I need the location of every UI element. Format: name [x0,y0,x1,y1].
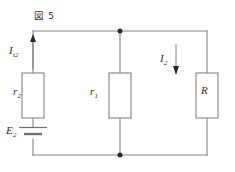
current-label-right: I2 [160,53,167,64]
source-label-E2-subscript: 2 [13,131,17,139]
resistor-r1-body [109,73,131,118]
current-arrow-right [173,44,179,75]
junction-node-top [118,29,123,34]
current-label-left-subscript: t2 [13,51,18,59]
junction-node-bottom [118,153,123,158]
source-label-E2: E2 [6,125,16,136]
resistor-label-R: R [201,85,208,96]
circuit-schematic-svg [0,0,235,172]
resistor-label-r2-symbol: r [13,85,17,97]
resistor-label-r1-symbol: r [90,85,94,97]
source-label-E2-symbol: E [6,124,13,136]
current-label-left: It2 [9,45,18,56]
circuit-figure: 図 5 [0,0,235,172]
resistor-label-r1-subscript: 1 [95,92,99,100]
resistor-label-r2: r2 [13,86,21,97]
resistor-r2-body [22,73,44,118]
resistor-label-R-symbol: R [201,84,208,96]
current-arrow-left [30,34,36,69]
current-label-right-subscript: 2 [164,59,168,67]
resistor-label-r1: r1 [90,86,98,97]
resistor-label-r2-subscript: 2 [18,92,22,100]
